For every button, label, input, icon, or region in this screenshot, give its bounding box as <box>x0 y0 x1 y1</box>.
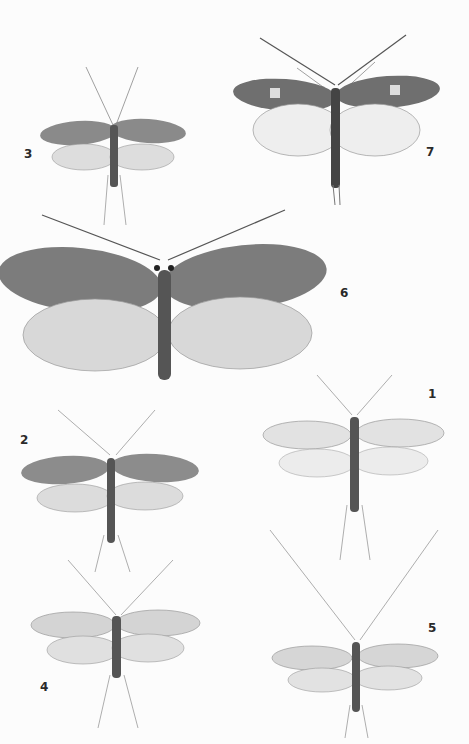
specimen-5-illustration <box>270 530 440 740</box>
specimen-3-number: 3 <box>24 147 32 161</box>
specimen-1-number: 1 <box>428 387 436 401</box>
specimen-2-illustration <box>20 410 205 575</box>
specimen-4-illustration <box>28 560 203 735</box>
specimen-2-number: 2 <box>20 433 28 447</box>
specimen-6-illustration <box>0 205 340 385</box>
specimen-5-number: 5 <box>428 621 436 635</box>
specimen-4-number: 4 <box>40 680 48 694</box>
specimen-7-number: 7 <box>426 145 434 159</box>
insect-plate: 7 3 6 1 <box>0 0 469 744</box>
specimen-6-number: 6 <box>340 286 348 300</box>
specimen-7-illustration <box>230 30 440 210</box>
